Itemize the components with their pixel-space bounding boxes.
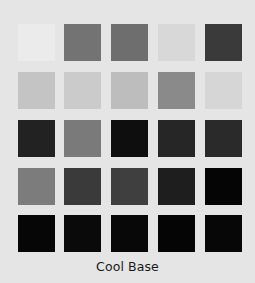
- color-swatch-r2-c5[interactable]: [205, 72, 242, 109]
- color-swatch-r5-c3[interactable]: [111, 215, 148, 252]
- color-palette-card: Cool Base: [0, 0, 255, 283]
- color-swatch-r4-c4[interactable]: [158, 168, 195, 205]
- color-swatch-r3-c3[interactable]: [111, 120, 148, 157]
- color-swatch-r3-c1[interactable]: [18, 120, 55, 157]
- color-swatch-r5-c1[interactable]: [18, 215, 55, 252]
- color-swatch-r5-c2[interactable]: [64, 215, 101, 252]
- palette-title: Cool Base: [0, 259, 255, 274]
- color-swatch-r2-c3[interactable]: [111, 72, 148, 109]
- color-swatch-r5-c4[interactable]: [158, 215, 195, 252]
- color-swatch-r3-c4[interactable]: [158, 120, 195, 157]
- color-swatch-r1-c2[interactable]: [64, 24, 101, 61]
- color-swatch-r3-c2[interactable]: [64, 120, 101, 157]
- color-swatch-r5-c5[interactable]: [205, 215, 242, 252]
- color-swatch-r4-c3[interactable]: [111, 168, 148, 205]
- color-swatch-r1-c5[interactable]: [205, 24, 242, 61]
- color-swatch-r2-c2[interactable]: [64, 72, 101, 109]
- color-swatch-r1-c4[interactable]: [158, 24, 195, 61]
- color-swatch-r4-c5[interactable]: [205, 168, 242, 205]
- color-swatch-r4-c2[interactable]: [64, 168, 101, 205]
- color-swatch-r2-c4[interactable]: [158, 72, 195, 109]
- color-swatch-r2-c1[interactable]: [18, 72, 55, 109]
- color-swatch-r4-c1[interactable]: [18, 168, 55, 205]
- color-swatch-r3-c5[interactable]: [205, 120, 242, 157]
- color-swatch-r1-c3[interactable]: [111, 24, 148, 61]
- color-swatch-r1-c1[interactable]: [18, 24, 55, 61]
